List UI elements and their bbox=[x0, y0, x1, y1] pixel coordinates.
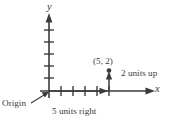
point-coordinate-label: (5, 2) bbox=[93, 57, 113, 66]
y-axis-arrowhead bbox=[46, 13, 53, 23]
origin-label: Origin bbox=[2, 99, 26, 108]
coordinate-plane-figure: y x Origin 5 units right 2 units up (5, … bbox=[0, 0, 172, 125]
y-axis-label: y bbox=[47, 2, 52, 13]
origin-leader bbox=[31, 92, 49, 103]
y-axis-group bbox=[44, 13, 54, 98]
plotted-point-5-2 bbox=[107, 68, 112, 73]
horizontal-move-label: 5 units right bbox=[52, 107, 96, 116]
vertical-move-label: 2 units up bbox=[121, 69, 157, 78]
x-axis-label: x bbox=[155, 84, 160, 95]
horizontal-move-arrowhead bbox=[100, 88, 109, 94]
x-axis-arrowhead bbox=[146, 88, 156, 95]
horizontal-move-arrow bbox=[50, 88, 108, 94]
vertical-move-arrow bbox=[106, 71, 112, 90]
origin-leader-arrowhead bbox=[42, 92, 49, 97]
